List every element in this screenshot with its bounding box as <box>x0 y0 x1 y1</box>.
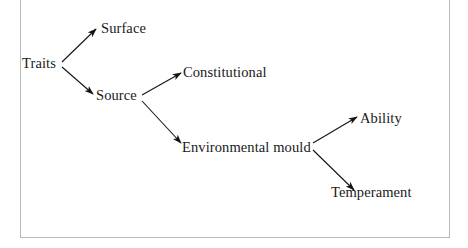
node-source: Source <box>96 88 137 103</box>
node-temperament: Temperament <box>331 185 412 200</box>
node-traits: Traits <box>22 56 56 71</box>
arrow-environmental-mould-to-ability <box>313 117 357 143</box>
diagram-page: Traits Surface Source Constitutional Env… <box>0 0 468 248</box>
node-ability: Ability <box>360 111 402 126</box>
node-surface: Surface <box>101 21 146 36</box>
arrow-traits-to-source <box>62 67 93 94</box>
arrow-source-to-constitutional <box>142 73 181 95</box>
node-environmental-mould: Environmental mould <box>182 140 311 155</box>
node-constitutional: Constitutional <box>183 65 267 80</box>
arrow-source-to-environmental-mould <box>142 101 181 143</box>
arrow-traits-to-surface <box>62 29 96 62</box>
